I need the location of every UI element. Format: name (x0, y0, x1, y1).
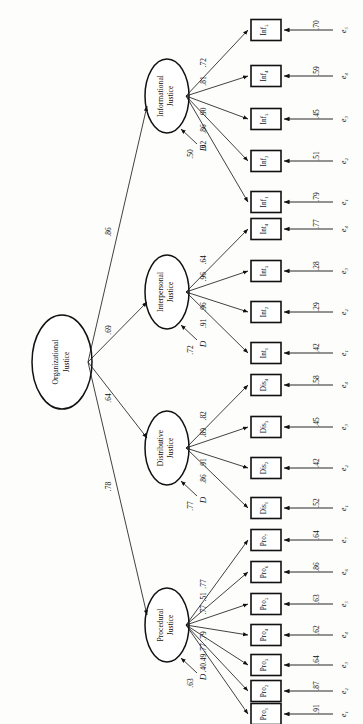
loading-arrow-procedural-2 (186, 625, 248, 691)
loading-arrow-distributive-4 (186, 385, 248, 448)
disturbance-value-interpersonal: .72 (186, 345, 195, 355)
sem-path-diagram: OrganizationalJusticeInformationalJustic… (0, 0, 363, 724)
loading-arrow-informational-3 (186, 96, 248, 119)
factor-label-procedural-line2: Justice (166, 614, 175, 635)
error-term-distributive-1: e1 (339, 505, 349, 511)
error-value-interpersonal-3: .28 (312, 261, 321, 271)
structural-path-informational (88, 106, 147, 362)
error-term-informational-5: e5 (339, 27, 349, 33)
error-value-informational-2: .51 (312, 151, 321, 161)
error-term-informational-2: e2 (339, 158, 349, 164)
loading-arrow-procedural-7 (186, 540, 248, 625)
error-value-distributive-3: .45 (312, 417, 321, 427)
factor-label-interpersonal-line1: Interpersonal (156, 272, 165, 312)
structural-coefficient-interpersonal: .69 (104, 325, 113, 335)
loading-arrow-informational-1 (186, 96, 248, 202)
loading-value-procedural-7: .77 (199, 579, 208, 589)
loading-value-interpersonal-3: .96 (199, 272, 208, 282)
error-value-procedural-5: .63 (312, 594, 321, 604)
error-value-informational-3: .45 (312, 109, 321, 119)
error-value-informational-4: .59 (312, 66, 321, 76)
loading-value-informational-3: .90 (199, 107, 208, 117)
loading-value-distributive-4: .82 (199, 411, 208, 421)
loading-value-procedural-2: .49 (199, 653, 208, 663)
error-value-informational-5: .70 (312, 20, 321, 30)
loading-arrow-distributive-2 (186, 448, 248, 468)
error-value-procedural-2: .87 (312, 681, 321, 691)
loading-arrow-informational-2 (186, 96, 248, 161)
structural-coefficient-distributive: .64 (104, 393, 113, 403)
error-term-procedural-1: e1 (339, 711, 349, 717)
loading-arrow-interpersonal-1 (186, 292, 248, 353)
disturbance-symbol-distributive: D (198, 496, 208, 504)
factor-label-informational-line2: Justice (166, 85, 175, 106)
loading-arrow-procedural-4 (186, 625, 248, 635)
error-term-distributive-2: e2 (339, 465, 349, 471)
factor-label-distributive-line1: Distributive (156, 429, 165, 466)
loading-value-procedural-3: .77 (199, 643, 208, 653)
error-term-interpersonal-2: e2 (339, 309, 349, 315)
loading-value-procedural-4: .79 (199, 631, 208, 641)
error-term-informational-4: e4 (339, 73, 349, 79)
factor-label-informational-line1: Informational (156, 75, 165, 117)
error-term-interpersonal-3: e3 (339, 268, 349, 274)
error-value-distributive-4: .58 (312, 375, 321, 385)
disturbance-arrow-procedural (181, 658, 197, 673)
error-value-procedural-6: .86 (312, 562, 321, 572)
loading-arrow-procedural-3 (186, 625, 248, 665)
loading-value-procedural-1: .40 (199, 663, 208, 673)
error-value-procedural-4: .62 (312, 625, 321, 635)
error-term-interpersonal-4: e4 (339, 226, 349, 232)
loading-value-interpersonal-4: .64 (199, 255, 208, 265)
second-order-factor-label-line1: Organizational (51, 340, 60, 385)
disturbance-value-informational: .50 (186, 149, 195, 159)
loading-value-interpersonal-2: .96 (199, 302, 208, 312)
loading-value-distributive-2: .91 (199, 458, 208, 468)
structural-path-interpersonal (88, 302, 147, 362)
factor-label-procedural-line1: Procedural (156, 609, 165, 642)
structural-coefficient-informational: .86 (104, 227, 113, 237)
loading-arrow-interpersonal-2 (186, 292, 248, 312)
disturbance-arrow-distributive (181, 481, 197, 496)
error-term-procedural-6: e6 (339, 569, 349, 575)
loading-value-distributive-1: .86 (199, 474, 208, 484)
error-value-distributive-1: .52 (312, 498, 321, 508)
loading-arrow-interpersonal-4 (186, 229, 248, 292)
error-term-distributive-3: e3 (339, 424, 349, 430)
disturbance-arrow-informational (181, 129, 197, 144)
error-value-informational-1: .79 (312, 192, 321, 202)
loading-value-interpersonal-1: .91 (199, 318, 208, 328)
loading-arrow-procedural-1 (186, 625, 248, 714)
error-value-procedural-3: .64 (312, 655, 321, 665)
error-term-procedural-5: e5 (339, 601, 349, 607)
error-term-distributive-4: e4 (339, 382, 349, 388)
loading-arrow-procedural-6 (186, 572, 248, 625)
disturbance-value-distributive: .77 (186, 501, 195, 511)
loading-arrow-interpersonal-3 (186, 271, 248, 292)
disturbance-value-procedural: .63 (186, 678, 195, 688)
factor-label-interpersonal-line2: Justice (166, 281, 175, 302)
diagram-canvas: OrganizationalJusticeInformationalJustic… (0, 0, 363, 724)
error-value-procedural-7: .64 (312, 530, 321, 540)
disturbance-symbol-procedural: D (198, 673, 208, 681)
error-term-informational-3: e3 (339, 116, 349, 122)
error-term-procedural-7: e7 (339, 537, 349, 543)
loading-arrow-distributive-1 (186, 448, 248, 508)
second-order-factor-label-line2: Justice (62, 351, 71, 372)
error-value-interpersonal-2: .29 (312, 302, 321, 312)
error-value-interpersonal-1: .42 (312, 343, 321, 353)
error-term-procedural-4: e4 (339, 632, 349, 638)
error-term-informational-1: e1 (339, 199, 349, 205)
loading-value-distributive-3: .89 (199, 428, 208, 438)
error-value-procedural-1: .91 (312, 704, 321, 714)
loading-value-informational-2: .86 (199, 124, 208, 134)
error-term-procedural-3: e3 (339, 662, 349, 668)
error-value-interpersonal-4: .77 (312, 219, 321, 229)
disturbance-arrow-interpersonal (181, 325, 197, 340)
loading-arrow-procedural-5 (186, 604, 248, 625)
error-term-interpersonal-1: e1 (339, 350, 349, 356)
loading-arrow-distributive-3 (186, 427, 248, 448)
disturbance-symbol-interpersonal: D (198, 340, 208, 348)
loading-value-informational-1: .62 (199, 140, 208, 150)
structural-coefficient-procedural: .78 (104, 482, 113, 492)
